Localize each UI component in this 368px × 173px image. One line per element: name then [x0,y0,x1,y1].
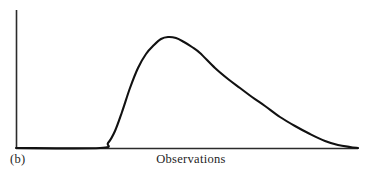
figure-panel-b: (b) Observations [0,0,368,173]
skewed-distribution-curve [16,37,358,148]
x-axis-title: Observations [0,152,368,167]
distribution-plot [0,0,368,173]
